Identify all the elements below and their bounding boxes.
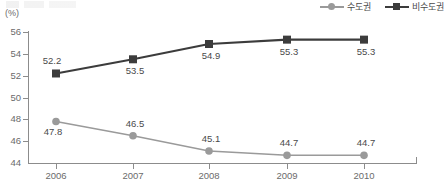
data-point-marker[interactable] bbox=[283, 36, 291, 44]
data-point-value-label: 45.1 bbox=[191, 134, 231, 144]
series-plot bbox=[0, 0, 448, 190]
data-point-marker[interactable] bbox=[205, 40, 213, 48]
data-point-value-label: 54.9 bbox=[191, 51, 231, 61]
data-point-marker[interactable] bbox=[283, 152, 291, 160]
data-point-value-label: 55.3 bbox=[269, 47, 309, 57]
data-point-marker[interactable] bbox=[52, 118, 60, 126]
data-point-value-label: 47.8 bbox=[33, 127, 73, 137]
data-point-value-label: 44.7 bbox=[269, 138, 309, 148]
data-point-marker[interactable] bbox=[360, 36, 368, 44]
data-point-value-label: 53.5 bbox=[115, 66, 155, 76]
data-point-marker[interactable] bbox=[129, 132, 137, 140]
data-point-value-label: 46.5 bbox=[115, 119, 155, 129]
data-point-value-label: 44.7 bbox=[346, 138, 386, 148]
data-point-value-label: 55.3 bbox=[346, 47, 386, 57]
data-point-value-label: 52.2 bbox=[32, 56, 72, 66]
data-point-marker[interactable] bbox=[52, 69, 60, 77]
line-chart: 수도권 비수도권 (%) 44464850525456 200620072008… bbox=[0, 0, 448, 190]
data-point-marker[interactable] bbox=[129, 55, 137, 63]
data-point-marker[interactable] bbox=[360, 152, 368, 160]
data-point-marker[interactable] bbox=[205, 147, 213, 155]
